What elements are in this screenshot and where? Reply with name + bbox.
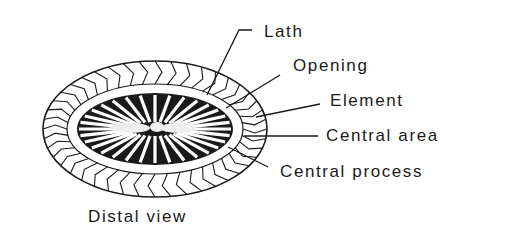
label-lath: Lath [264,23,304,40]
label-element: Element [330,92,404,109]
caption-distal-view: Distal view [88,208,187,225]
label-central-process: Central process [280,163,423,180]
label-central-area: Central area [326,127,439,144]
leader-element [256,104,320,117]
coccolith-diagram [0,0,508,236]
label-opening: Opening [293,57,368,74]
